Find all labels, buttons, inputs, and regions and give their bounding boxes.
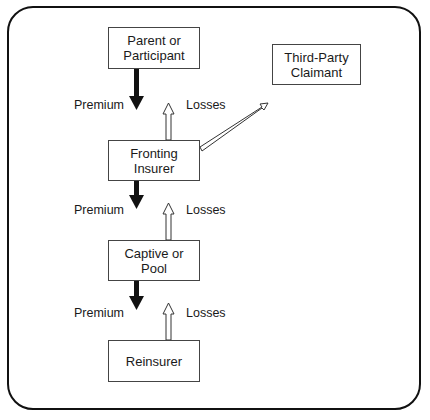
node-label: Claimant bbox=[291, 65, 342, 80]
losses-label: Losses bbox=[186, 203, 226, 217]
node-fronting: Fronting Insurer bbox=[108, 140, 200, 181]
node-parent: Parent or Participant bbox=[108, 27, 200, 69]
node-label: Participant bbox=[123, 48, 184, 63]
node-label: Captive or bbox=[124, 246, 183, 261]
node-label: Reinsurer bbox=[126, 354, 182, 369]
losses-label: Losses bbox=[186, 98, 226, 112]
losses-arrow-icon bbox=[163, 303, 174, 340]
node-captive: Captive or Pool bbox=[108, 240, 200, 281]
losses-arrow-icon bbox=[163, 203, 174, 240]
premium-label: Premium bbox=[74, 98, 124, 112]
node-label: Pool bbox=[141, 261, 167, 276]
node-label: Parent or bbox=[127, 33, 180, 48]
premium-arrow-icon bbox=[129, 69, 144, 110]
node-label: Insurer bbox=[134, 161, 174, 176]
premium-arrow-icon bbox=[129, 281, 144, 310]
premium-label: Premium bbox=[74, 306, 124, 320]
losses-label: Losses bbox=[186, 306, 226, 320]
losses-arrow-icon bbox=[163, 103, 174, 140]
node-reinsurer: Reinsurer bbox=[108, 340, 200, 382]
node-third-party: Third-Party Claimant bbox=[272, 44, 361, 85]
node-label: Fronting bbox=[130, 146, 178, 161]
premium-label: Premium bbox=[74, 203, 124, 217]
node-label: Third-Party bbox=[284, 50, 348, 65]
premium-arrow-icon bbox=[129, 180, 144, 209]
